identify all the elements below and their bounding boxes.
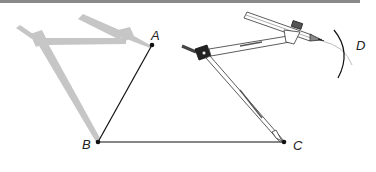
segment-ba (98, 45, 152, 142)
label-a: A (150, 28, 160, 43)
arc-d (334, 30, 344, 78)
pencil-compass (182, 12, 324, 142)
point-b (96, 140, 101, 145)
point-c (282, 140, 287, 145)
label-d: D (356, 38, 365, 53)
geometry-diagram: A B C D (0, 0, 376, 172)
ghost-compass (16, 14, 152, 142)
point-a (150, 43, 155, 48)
pencil-sweep (322, 41, 352, 65)
label-c: C (293, 138, 303, 153)
label-b: B (82, 137, 91, 152)
